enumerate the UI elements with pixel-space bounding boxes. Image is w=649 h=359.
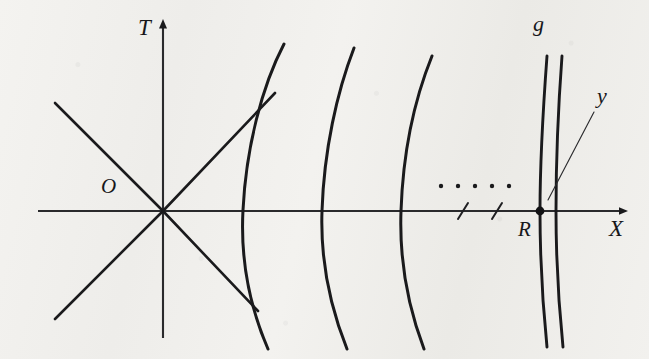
label-origin-o: O: [101, 176, 116, 197]
ellipsis-dot: [490, 184, 494, 188]
hyperbola-1-path: [243, 44, 284, 349]
hyperbola-3-path: [401, 56, 432, 349]
hyperbola-family: [243, 44, 432, 349]
hyperbola-2-path: [322, 48, 354, 349]
geodesic-right-path: [556, 56, 563, 347]
label-ray-y: y: [597, 85, 607, 107]
ellipsis-dot: [456, 184, 460, 188]
label-point-r: R: [518, 219, 531, 240]
ellipsis-dot: [473, 184, 477, 188]
ellipsis-dots: [439, 184, 511, 188]
geodesic-left-path: [540, 56, 547, 347]
figure-canvas: T O X R g y: [0, 0, 649, 359]
ellipsis-dot: [507, 184, 511, 188]
label-t-axis: T: [138, 16, 151, 39]
pointer-line-y: [548, 112, 594, 200]
point-marker-r: [536, 207, 545, 216]
geodesic-pair-g: [540, 56, 563, 347]
ellipsis-dot: [439, 184, 443, 188]
label-x-axis: X: [609, 217, 623, 240]
spacetime-diagram-svg: [0, 0, 649, 359]
asymptote-lower-left-line: [55, 211, 163, 319]
label-geodesic-g: g: [533, 13, 544, 35]
